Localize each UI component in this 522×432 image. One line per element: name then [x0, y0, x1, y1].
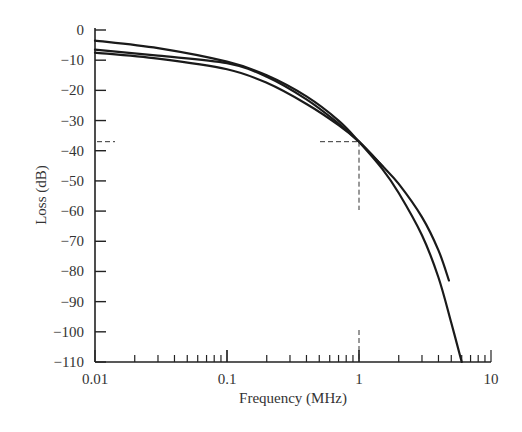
y-tick-label: −90: [61, 294, 84, 310]
y-tick-label: −50: [61, 173, 84, 189]
y-tick-label: −40: [61, 143, 84, 159]
x-tick-label: 0.01: [82, 371, 108, 387]
y-tick-label: −60: [61, 203, 84, 219]
y-tick-label: −80: [61, 263, 84, 279]
x-tick-label: 0.1: [218, 371, 237, 387]
y-tick-label: 0: [77, 22, 85, 38]
x-tick-label: 1: [355, 371, 363, 387]
y-tick-label: −70: [61, 233, 84, 249]
series-line-curve-3: [95, 53, 382, 166]
y-tick-label: −10: [61, 52, 84, 68]
axes: [95, 28, 491, 362]
x-tick-label: 10: [484, 371, 499, 387]
dashed-reference-lines: [97, 142, 359, 362]
y-tick-label: −110: [54, 354, 84, 370]
y-tick-label: −20: [61, 82, 84, 98]
y-tick-label: −30: [61, 113, 84, 129]
loss-frequency-chart: 0−10−20−30−40−50−60−70−80−90−100−110 0.0…: [0, 0, 522, 432]
y-ticks: 0−10−20−30−40−50−60−70−80−90−100−110: [53, 22, 106, 370]
y-axis-label: Loss (dB): [33, 165, 50, 225]
series-lines: [95, 41, 462, 362]
y-tick-label: −100: [53, 324, 84, 340]
x-ticks: 0.010.1110: [82, 350, 499, 387]
x-axis-label: Frequency (MHz): [239, 390, 347, 407]
